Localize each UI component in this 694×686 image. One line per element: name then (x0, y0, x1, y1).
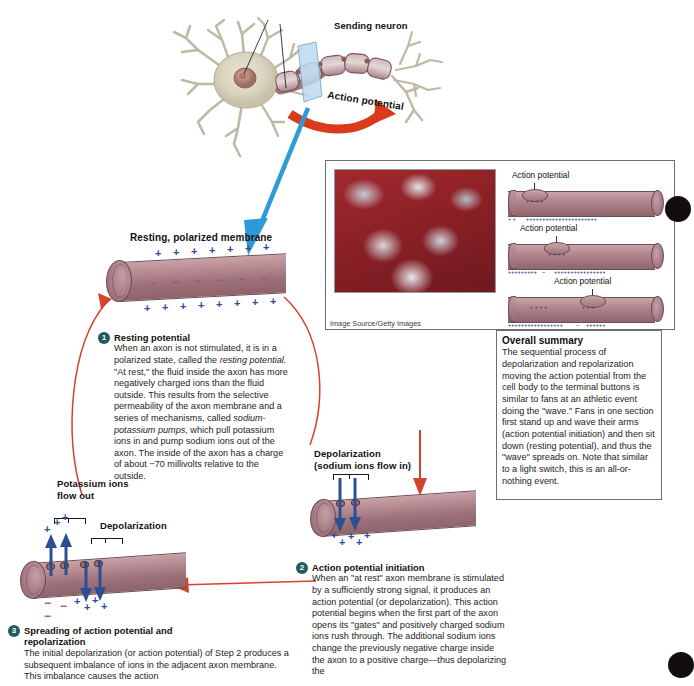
mini-diagram-2-label: Action potential (520, 223, 577, 233)
overall-summary-box: Overall summary The sequential process o… (496, 330, 662, 500)
step-2: 2 Action potential initiation When an "a… (296, 562, 508, 678)
depolarization-pointer-arrow (404, 430, 440, 502)
edge-artifact-bottom (668, 652, 694, 678)
mini-diagram-3-label: Action potential (554, 276, 611, 286)
step-3-body: The initial depolarization (or action po… (24, 648, 293, 683)
edge-artifact-top (665, 196, 691, 222)
step-1-title: Resting potential (114, 332, 293, 343)
mini-inner-charges-3b: + + + (582, 305, 595, 310)
mini-inner-charges-1: + + + + (526, 199, 543, 204)
mini-outer-charges-3c: ++++++ (586, 322, 605, 328)
potassium-flow-label-line2: flow out (57, 490, 94, 502)
mini-inner-charges-2: + + + + (548, 252, 565, 257)
mini-outer-charges-3a: +++++++++++++++++ (508, 322, 563, 328)
step-3: 3 Spreading of action potential and repo… (8, 625, 293, 683)
mini-outer-charges-1b: ++++++++++++++++++++++ (526, 216, 597, 222)
mini-outer-charges-2c: ++++++++++++++++ (554, 269, 606, 275)
depolarization-sodium-label-line1: Depolarization (314, 448, 381, 460)
mini-diagram-1-label: Action potential (512, 170, 569, 180)
step-1: 1 Resting potential When an axon is not … (98, 332, 293, 483)
depolarization-sodium-label-line2: (sodium ions flow in) (314, 460, 411, 472)
step-3-title-line2: repolarization (24, 636, 293, 647)
step-3-badge: 3 (8, 625, 20, 637)
crowd-photo (334, 169, 496, 293)
section-plane (290, 40, 330, 110)
step-2-body: When an "at rest" axon membrane is stimu… (312, 573, 508, 677)
mini-outer-charges-2b: − (542, 269, 545, 275)
mini-outer-charges-2a: +++++++++ (508, 269, 537, 275)
summary-body: The sequential process of depolarization… (502, 347, 656, 487)
sending-neuron-label: Sending neuron (334, 20, 408, 32)
photo-credit: Image Source/Getty Images (330, 319, 421, 328)
nucleolus (240, 73, 247, 79)
mini-inner-charges-3a: + + + + (530, 305, 547, 310)
step-1-body: When an axon is not stimulated, it is in… (114, 343, 293, 482)
summary-title: Overall summary (502, 335, 656, 347)
step-2-title: Action potential initiation (312, 562, 508, 573)
mini-outer-charges-3b: − (576, 322, 579, 328)
mini-outer-charges-1a: + + (508, 216, 516, 222)
wave-analogy-inset: Image Source/Getty Images Action potenti… (325, 160, 675, 330)
mini-axon-2 (508, 244, 664, 268)
step-1-badge: 1 (98, 332, 110, 344)
potassium-flow-label-line1: Potassium ions (57, 478, 129, 490)
step-3-title-line1: Spreading of action potential and (24, 625, 293, 636)
step-2-badge: 2 (296, 562, 308, 574)
repolarization-ion-arrows (38, 530, 128, 612)
